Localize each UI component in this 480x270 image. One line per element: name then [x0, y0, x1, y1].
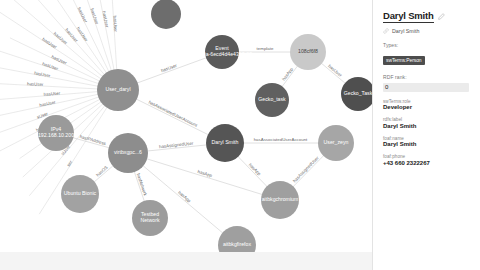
- graph-explorer-app: hasUserhasUserhasUserhasUserhasUserhasUs…: [0, 0, 480, 270]
- property-list: swTerms:roleDeveloperrdfs:labelDaryl Smi…: [383, 99, 472, 166]
- edge-label: hasUser: [76, 26, 90, 43]
- graph-node[interactable]: Gecko_Task: [341, 77, 372, 111]
- property-value: +43 660 2322267: [383, 160, 472, 166]
- pencil-icon[interactable]: [438, 13, 445, 20]
- edge-label: hasApp: [248, 162, 262, 177]
- edge-label: hasUser: [160, 63, 178, 73]
- graph-node[interactable]: 108cf6f8: [290, 34, 326, 70]
- property-key: foaf:phone: [383, 154, 472, 159]
- node-uri-row: Daryl Smith: [383, 28, 472, 34]
- rdf-rank-label: RDF rank:: [383, 74, 472, 80]
- graph-node[interactable]: User_zeyn: [318, 125, 354, 161]
- node-details-sidebar: Daryl Smith Daryl Smith Types: swTerms:P…: [372, 0, 480, 270]
- property-value: Daryl Smith: [383, 141, 472, 147]
- graph-node[interactable]: aitbkgfirefox: [218, 226, 256, 252]
- link-icon: [383, 28, 389, 34]
- graph-node[interactable]: aitbkgchromium: [261, 181, 299, 219]
- property-value: Daryl Smith: [383, 123, 472, 129]
- graph-svg[interactable]: hasUserhasUserhasUserhasUserhasUserhasUs…: [0, 0, 372, 252]
- graph-node[interactable]: Daryl Smith: [206, 124, 244, 162]
- graph-node[interactable]: virtbxgpc...6: [108, 133, 148, 173]
- graph-node[interactable]: Gecko_task: [255, 83, 289, 117]
- node-uri-label: Daryl Smith: [392, 28, 419, 34]
- canvas-bottom-strip: [0, 252, 372, 270]
- edge-label: hasUser: [77, 7, 89, 24]
- edge-label: hasNetwork: [136, 173, 148, 197]
- spoke-edge-group: hasUserhasUserhasUserhasUserhasUserhasUs…: [0, 0, 118, 214]
- edge-label: template: [257, 46, 274, 51]
- graph-node[interactable]: User_daryl: [97, 69, 139, 111]
- edge-label: hasUser: [327, 63, 343, 78]
- edge-label: hasUser: [53, 31, 69, 46]
- graph-canvas[interactable]: hasUserhasUserhasUserhasUserhasUserhasUs…: [0, 0, 372, 252]
- property-block: foaf:nameDaryl Smith: [383, 136, 472, 148]
- property-value: Developer: [383, 104, 472, 110]
- edge-label: hasUser: [51, 54, 68, 66]
- page-title: Daryl Smith: [383, 10, 434, 23]
- property-block: swTerms:roleDeveloper: [383, 99, 472, 111]
- types-label: Types:: [383, 42, 472, 48]
- edge-label: hasUser: [41, 37, 58, 50]
- edge-label: hasAssociatedUserAccount: [254, 137, 308, 142]
- edge-label: hasAssignedUser: [292, 155, 320, 183]
- property-key: swTerms:role: [383, 99, 472, 104]
- graph-node[interactable]: [151, 0, 181, 29]
- node-title-row: Daryl Smith: [383, 10, 472, 23]
- rdf-rank-field[interactable]: 0: [383, 83, 469, 92]
- edge-label: hasUser: [64, 27, 79, 43]
- edge-label: hasApp: [177, 190, 192, 204]
- edge-label: hasAssociatedUserAccount: [148, 100, 199, 129]
- graph-node[interactable]: TestbedNetwork: [132, 200, 168, 236]
- property-block: foaf:phone+43 660 2322267: [383, 154, 472, 166]
- property-key: rdfs:label: [383, 117, 472, 122]
- graph-node[interactable]: IPv4192.168.10.200: [38, 115, 74, 151]
- graph-node[interactable]: Ubuntu Bionic: [61, 175, 99, 213]
- type-badge[interactable]: swTerms:Person: [383, 56, 425, 65]
- property-block: rdfs:labelDaryl Smith: [383, 117, 472, 129]
- property-key: foaf:name: [383, 136, 472, 141]
- rdf-rank-value: 0: [385, 84, 388, 90]
